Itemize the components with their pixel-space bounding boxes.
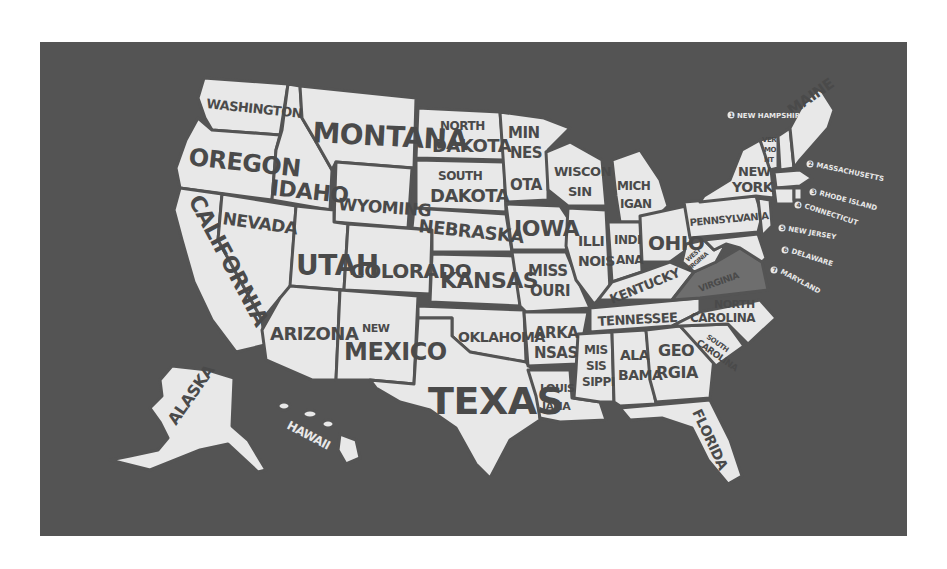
callout-massachusetts: 2 MASSACHUSETTS: [807, 160, 885, 183]
state-rhode-island[interactable]: [794, 188, 802, 200]
us-states-map: WASHINGTON OREGON CALIFORNIA IDAHO NEVAD…: [0, 0, 947, 569]
label-georgia-1: GEO: [658, 341, 694, 360]
svg-text:3: 3: [812, 188, 816, 195]
label-south-dakota-1: SOUTH: [438, 169, 482, 183]
callout-delaware: 6 DELAWARE: [782, 246, 835, 268]
label-louisiana-1: LOUIS: [540, 382, 575, 395]
label-new-york-1: NEW: [738, 164, 771, 179]
label-vermont-3: NT: [764, 156, 774, 164]
label-kansas: KANSAS: [440, 268, 538, 293]
label-new-york-2: YORK: [731, 179, 775, 195]
label-michigan-2: IGAN: [620, 197, 652, 211]
label-indiana-2: ANA: [616, 253, 644, 267]
callout-new-jersey: 5 NEW JERSEY: [779, 224, 838, 242]
svg-text:1: 1: [730, 111, 734, 118]
label-missouri-2: OURI: [530, 282, 570, 300]
label-minnesota-3: OTA: [510, 176, 543, 194]
label-vermont-2: MO: [764, 146, 776, 154]
label-north-dakota-1: NORTH: [440, 119, 485, 133]
label-illinois-2: NOIS: [578, 253, 615, 269]
label-south-dakota-2: DAKOTA: [430, 185, 510, 206]
label-minnesota-1: MIN: [508, 124, 540, 142]
label-north-dakota-2: DAKOTA: [432, 135, 512, 156]
label-michigan-1: MICH: [617, 179, 650, 193]
callout-maryland: 7 MARYLAND: [771, 266, 822, 296]
svg-text:4: 4: [797, 201, 801, 208]
svg-text:5: 5: [781, 224, 785, 231]
label-alabama-1: ALA: [620, 347, 650, 363]
svg-text:NEW HAMPSHIRE: NEW HAMPSHIRE: [737, 112, 805, 120]
label-new-mexico-2: MEXICO: [344, 338, 447, 366]
label-north-carolina-1: NORTH: [714, 298, 755, 311]
svg-text:DELAWARE: DELAWARE: [790, 247, 834, 268]
label-north-carolina-2: CAROLINA: [690, 311, 756, 325]
svg-text:MASSACHUSETTS: MASSACHUSETTS: [816, 161, 885, 183]
svg-text:7: 7: [773, 266, 777, 273]
svg-text:MARYLAND: MARYLAND: [779, 268, 822, 296]
label-georgia-2: RGIA: [656, 363, 699, 382]
label-wisconsin-1: WISCON: [554, 164, 611, 179]
label-mississippi-1: MIS: [584, 343, 608, 357]
state-connecticut[interactable]: [774, 188, 794, 204]
callout-new-hampshire: 1 NEW HAMPSHIRE: [728, 111, 806, 120]
svg-text:NEW JERSEY: NEW JERSEY: [788, 225, 838, 241]
label-arkansas-2: NSAS: [534, 344, 578, 362]
label-arkansas-1: ARKA: [534, 324, 579, 342]
svg-text:6: 6: [784, 246, 788, 253]
label-new-mexico-1: NEW: [362, 322, 390, 335]
label-vermont-1: VER: [762, 136, 777, 144]
label-indiana-1: INDI: [614, 233, 641, 247]
label-louisiana-2: IANA: [542, 400, 571, 413]
label-mississippi-2: SIS: [586, 359, 606, 373]
label-minnesota-2: NES: [510, 144, 542, 162]
svg-text:CONNECTICUT: CONNECTICUT: [803, 202, 859, 227]
svg-text:2: 2: [809, 160, 813, 167]
label-mississippi-3: SIPPI: [582, 375, 615, 389]
label-oklahoma: OKLAHOMA: [458, 329, 546, 345]
label-illinois-1: ILLI: [578, 233, 604, 249]
label-missouri-1: MISS: [528, 262, 567, 280]
label-wisconsin-2: SIN: [568, 184, 592, 199]
state-massachusetts[interactable]: [774, 170, 812, 188]
state-florida[interactable]: [620, 400, 742, 484]
label-iowa: IOWA: [514, 216, 580, 241]
